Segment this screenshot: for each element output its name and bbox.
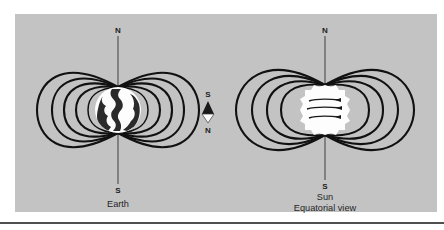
sun-disc	[300, 85, 350, 135]
sun-view-caption: Equatorial view	[294, 203, 357, 213]
compass-north-label: N	[205, 126, 211, 135]
figure-root: N S Earth S N	[0, 0, 444, 230]
magnetic-field-figure: N S Earth S N	[0, 0, 444, 230]
sun-caption: Sun	[317, 192, 333, 202]
sun-north-pole-label: N	[322, 26, 328, 35]
sun-south-pole-label: S	[322, 182, 328, 191]
diagram-panel	[15, 14, 437, 212]
compass-south-label: S	[205, 90, 211, 99]
earth-south-pole-label: S	[115, 186, 121, 195]
earth-north-pole-label: N	[115, 26, 121, 35]
earth-caption: Earth	[107, 199, 129, 209]
